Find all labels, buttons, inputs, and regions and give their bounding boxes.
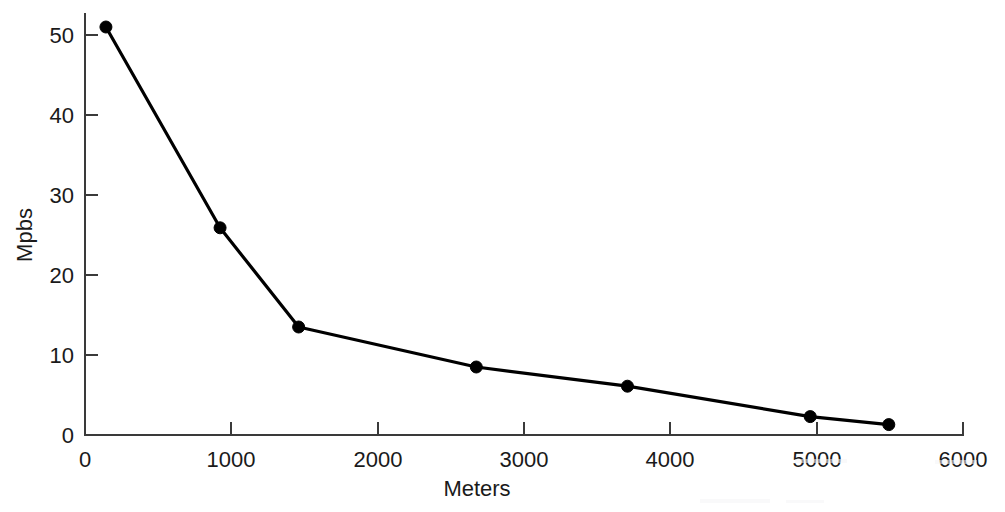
y-tick-marks [85,35,98,435]
x-tick-label-1000: 1000 [207,447,256,472]
x-axis-title: Meters [443,476,510,501]
y-axis-title: Mpbs [12,208,37,262]
data-point [470,361,482,373]
x-tick-marks [85,422,963,435]
scan-artifact-2 [935,460,977,464]
data-point [883,419,895,431]
scan-artifact-4 [786,500,824,503]
data-point [293,321,305,333]
x-tick-labels: 0 1000 2000 3000 4000 5000 6000 [79,447,988,472]
x-tick-label-0: 0 [79,447,91,472]
scan-artifact-3 [700,499,770,503]
x-tick-label-3000: 3000 [500,447,549,472]
y-tick-label-50: 50 [50,23,74,48]
data-point [804,411,816,423]
chart-figure: 0 10 20 30 40 50 0 1000 2000 3000 4000 5… [0,0,1005,512]
x-tick-label-2000: 2000 [354,447,403,472]
line-chart: 0 10 20 30 40 50 0 1000 2000 3000 4000 5… [0,0,1005,512]
y-tick-label-10: 10 [50,343,74,368]
x-tick-label-4000: 4000 [646,447,695,472]
data-point [214,222,226,234]
y-tick-label-0: 0 [62,423,74,448]
y-tick-label-20: 20 [50,263,74,288]
data-point [100,21,112,33]
data-point [621,380,633,392]
scan-artifact-1 [795,459,847,463]
y-tick-label-30: 30 [50,183,74,208]
y-tick-label-40: 40 [50,103,74,128]
y-tick-labels: 0 10 20 30 40 50 [50,23,74,448]
